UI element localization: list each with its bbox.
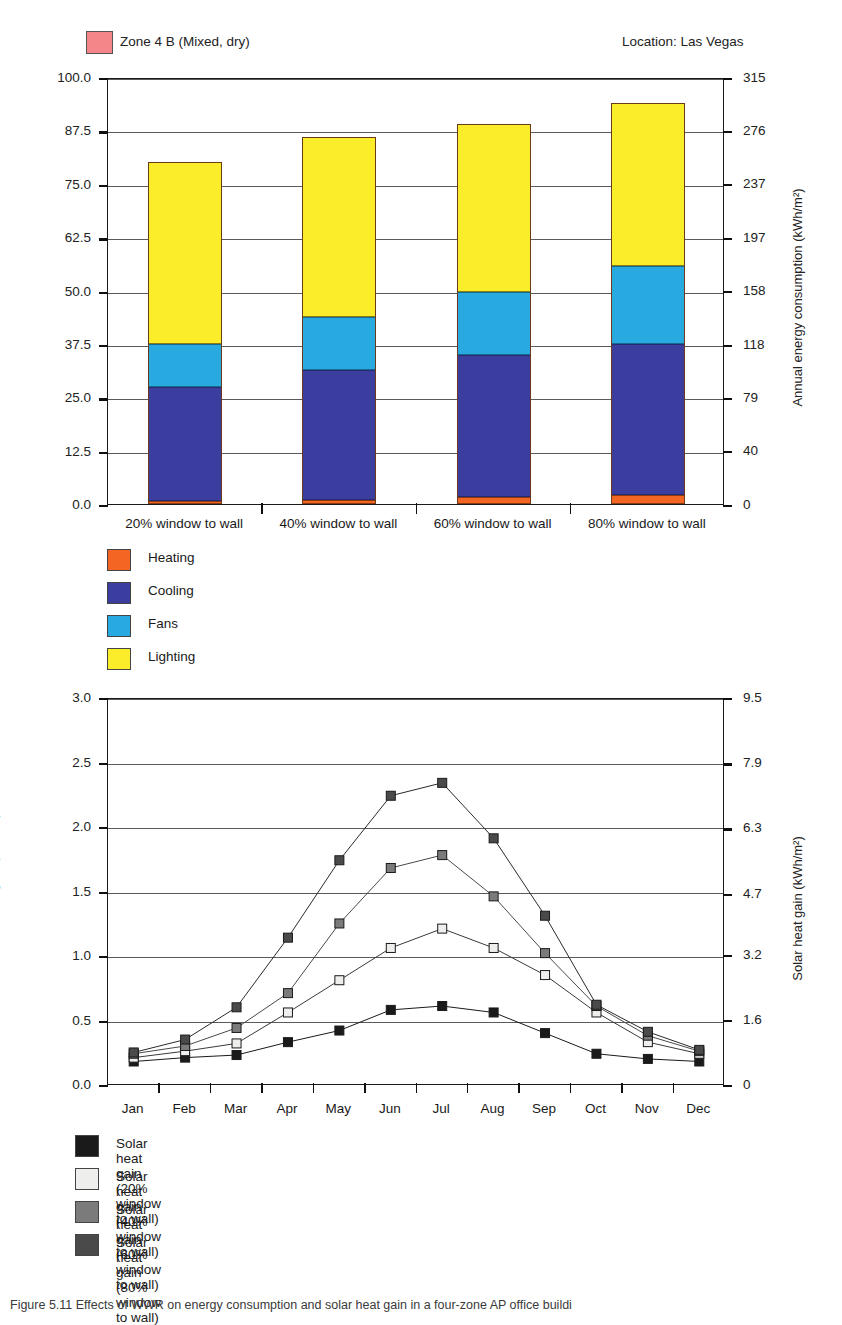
data-point-marker[interactable] <box>335 976 344 985</box>
data-point-marker[interactable] <box>438 924 447 933</box>
solar-heat-gain-chart: Solar heat gain (kBtu/ft²) Solar heat ga… <box>0 686 842 1320</box>
data-point-marker[interactable] <box>489 943 498 952</box>
y-tick-label-left: 50.0 <box>13 284 91 299</box>
x-tick <box>210 1083 212 1093</box>
bar-outline <box>457 124 531 504</box>
x-category-label: 80% window to wall <box>552 516 742 531</box>
data-point-marker[interactable] <box>386 791 395 800</box>
y-tick-left <box>99 892 108 894</box>
data-point-marker[interactable] <box>335 919 344 928</box>
y-tick-label-left: 1.5 <box>28 884 91 899</box>
y-tick-left <box>99 505 108 507</box>
data-point-marker[interactable] <box>541 1029 550 1038</box>
y-tick-label-right: 3.2 <box>743 947 793 962</box>
annual-energy-consumption-chart: Zone 4 B (Mixed, dry) Location: Las Vega… <box>0 0 842 530</box>
data-point-marker[interactable] <box>283 933 292 942</box>
y-tick-right <box>723 505 732 507</box>
data-point-marker[interactable] <box>232 1039 241 1048</box>
data-point-marker[interactable] <box>592 1000 601 1009</box>
data-point-marker[interactable] <box>335 856 344 865</box>
y-tick-left <box>99 185 108 187</box>
y-tick-left <box>99 763 108 765</box>
data-point-marker[interactable] <box>386 863 395 872</box>
y-tick-label-right: 237 <box>743 176 793 191</box>
y-tick-label-left: 100.0 <box>13 70 91 85</box>
data-point-marker[interactable] <box>489 834 498 843</box>
data-point-marker[interactable] <box>283 1038 292 1047</box>
y-tick-label-left: 12.5 <box>13 444 91 459</box>
y-tick-label-right: 6.3 <box>743 820 793 835</box>
location-label: Location: Las Vegas <box>622 34 744 49</box>
data-point-marker[interactable] <box>541 949 550 958</box>
y-tick-right <box>723 398 732 400</box>
legend-swatch-icon <box>107 648 131 670</box>
series-line-2 <box>134 855 700 1054</box>
y-tick-left <box>99 698 108 700</box>
y-tick-label-left: 0.5 <box>28 1013 91 1028</box>
bar-stack[interactable] <box>302 137 376 504</box>
data-point-marker[interactable] <box>695 1045 704 1054</box>
x-tick <box>416 503 418 514</box>
x-tick <box>673 1083 675 1093</box>
y-tick-right <box>723 131 732 133</box>
data-point-marker[interactable] <box>232 1003 241 1012</box>
data-point-marker[interactable] <box>181 1035 190 1044</box>
y-tick-left <box>99 1085 108 1087</box>
y-tick-label-right: 9.5 <box>743 690 793 705</box>
legend-swatch-icon <box>75 1201 99 1223</box>
y-tick-right <box>723 184 732 186</box>
y-tick-label-left: 3.0 <box>28 690 91 705</box>
zone-label: Zone 4 B (Mixed, dry) <box>120 34 250 49</box>
data-point-marker[interactable] <box>232 1023 241 1032</box>
bar-stack[interactable] <box>611 103 685 504</box>
x-tick <box>158 1083 160 1093</box>
y-tick-left <box>99 398 108 400</box>
data-point-marker[interactable] <box>489 1008 498 1017</box>
y-tick-label-right: 118 <box>743 337 793 352</box>
data-point-marker[interactable] <box>489 892 498 901</box>
data-point-marker[interactable] <box>643 1054 652 1063</box>
y-tick-right <box>723 451 732 453</box>
y-tick-right <box>723 345 732 347</box>
bar-stack[interactable] <box>148 162 222 504</box>
legend-label: Fans <box>148 616 178 631</box>
data-point-marker[interactable] <box>129 1048 138 1057</box>
x-month-label: Dec <box>668 1101 728 1116</box>
y-tick-label-right: 4.7 <box>743 886 793 901</box>
y-tick-label-left: 37.5 <box>13 337 91 352</box>
y-tick-label-left: 2.5 <box>28 755 91 770</box>
series-line-1 <box>134 929 700 1058</box>
bar-stack[interactable] <box>457 124 531 504</box>
data-point-marker[interactable] <box>386 943 395 952</box>
y-tick-label-left: 1.0 <box>28 948 91 963</box>
y-tick-label-right: 197 <box>743 230 793 245</box>
data-point-marker[interactable] <box>335 1026 344 1035</box>
y-tick-label-right: 79 <box>743 390 793 405</box>
data-point-marker[interactable] <box>283 1008 292 1017</box>
data-point-marker[interactable] <box>541 911 550 920</box>
y-tick-left <box>99 1021 108 1023</box>
y-tick-label-right: 40 <box>743 443 793 458</box>
data-point-marker[interactable] <box>643 1027 652 1036</box>
y-tick-left <box>99 131 108 133</box>
data-point-marker[interactable] <box>232 1051 241 1060</box>
x-tick <box>261 503 263 514</box>
y-tick-label-left: 0.0 <box>13 497 91 512</box>
y-tick-left <box>99 238 108 240</box>
data-point-marker[interactable] <box>386 1005 395 1014</box>
x-tick <box>570 1083 572 1093</box>
y-tick-label-right: 0 <box>743 1077 793 1092</box>
figure-caption: Figure 5.11 Effects of WWR on energy con… <box>10 1298 840 1316</box>
data-point-marker[interactable] <box>438 851 447 860</box>
data-point-marker[interactable] <box>541 971 550 980</box>
y-tick-label-right: 315 <box>743 70 793 85</box>
x-tick <box>621 1083 623 1093</box>
y-tick-label-right: 158 <box>743 283 793 298</box>
data-point-marker[interactable] <box>438 1002 447 1011</box>
data-point-marker[interactable] <box>283 989 292 998</box>
data-point-marker[interactable] <box>592 1049 601 1058</box>
data-point-marker[interactable] <box>438 778 447 787</box>
y-tick-left <box>99 292 108 294</box>
y-tick-label-left: 25.0 <box>13 390 91 405</box>
